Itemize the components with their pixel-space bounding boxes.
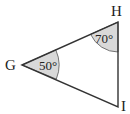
vertex-label-h: H [111, 3, 122, 19]
angle-label-g: 50° [39, 58, 57, 73]
triangle-diagram: G H I 50° 70° [0, 0, 130, 114]
vertex-label-i: I [121, 98, 126, 114]
angle-label-h: 70° [95, 31, 113, 46]
vertex-label-g: G [5, 57, 16, 73]
